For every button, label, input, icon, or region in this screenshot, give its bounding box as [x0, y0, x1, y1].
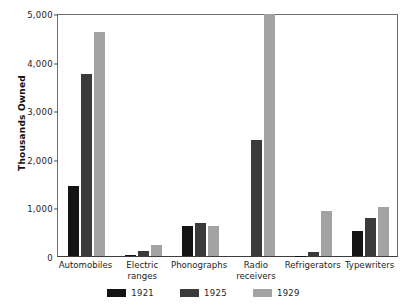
- bar-1925: [251, 140, 262, 256]
- y-tick-label: 1,000: [27, 204, 53, 214]
- bar-1925: [365, 218, 376, 256]
- chart-legend: 192119251929: [0, 288, 407, 298]
- plot-area: 01,0002,0003,0004,0005,000: [57, 14, 398, 257]
- legend-label: 1925: [204, 288, 227, 298]
- bar-group: [172, 15, 229, 256]
- bar-1921: [352, 231, 363, 256]
- bar-1929: [94, 32, 105, 256]
- y-tick-label: 2,000: [27, 156, 53, 166]
- bar-group: [115, 15, 172, 256]
- bar-group: [285, 15, 342, 256]
- bar-group: [342, 15, 399, 256]
- legend-swatch: [253, 289, 272, 297]
- legend-item: 1925: [180, 288, 227, 298]
- bar-1929: [378, 207, 389, 256]
- bar-1929: [264, 14, 275, 256]
- bar-1921: [182, 226, 193, 256]
- bar-groups: [58, 15, 397, 256]
- bar-1929: [151, 245, 162, 256]
- y-axis-title: Thousands Owned: [17, 43, 27, 203]
- bar-1925: [138, 251, 149, 256]
- x-axis-label: Typewriters: [331, 260, 407, 271]
- y-tick-label: 5,000: [27, 10, 53, 20]
- legend-swatch: [180, 289, 199, 297]
- bar-group: [229, 15, 286, 256]
- legend-item: 1929: [253, 288, 300, 298]
- bar-1925: [195, 223, 206, 256]
- y-tick-label: 3,000: [27, 107, 53, 117]
- bar-chart: Thousands Owned 01,0002,0003,0004,0005,0…: [0, 0, 407, 305]
- bar-1925: [308, 252, 319, 256]
- legend-label: 1921: [131, 288, 154, 298]
- bar-1929: [208, 226, 219, 256]
- bar-group: [58, 15, 115, 256]
- bar-1921: [68, 186, 79, 256]
- legend-swatch: [107, 289, 126, 297]
- y-tick-label: 4,000: [27, 59, 53, 69]
- bar-1921: [125, 255, 136, 256]
- legend-label: 1929: [277, 288, 300, 298]
- legend-item: 1921: [107, 288, 154, 298]
- bar-1929: [321, 211, 332, 256]
- bar-1925: [81, 74, 92, 256]
